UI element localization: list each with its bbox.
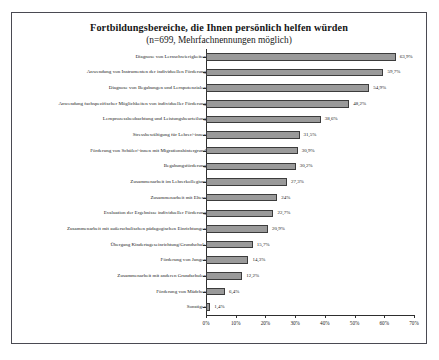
x-axis-tick-label: 10%	[231, 320, 241, 327]
y-axis-tick	[203, 260, 206, 261]
bar-row: Förderung von Schüler/-innen mit Migrati…	[12, 143, 428, 159]
plot-area: Diagnose von Lernschwierigkeiten63,9%Anw…	[12, 49, 428, 345]
bar-track: 1,4%	[206, 299, 416, 315]
bar-track: 12,2%	[206, 268, 416, 284]
value-label: 1,4%	[214, 303, 224, 311]
category-label: Förderung von Jungen	[0, 257, 206, 263]
bar	[206, 303, 210, 311]
value-label: 22,7%	[277, 209, 290, 217]
x-axis-tick	[236, 315, 237, 318]
bar-track: 63,9%	[206, 49, 416, 65]
bar-row: Anwendung von Instrumenten der individue…	[12, 65, 428, 81]
category-label: Zusammenarbeit mit außerschulischen päda…	[0, 226, 206, 232]
y-axis-tick	[203, 245, 206, 246]
value-label: 30,9%	[302, 147, 315, 155]
bar	[206, 84, 369, 92]
category-label: Zusammenarbeit im Lehrerkollegium	[0, 179, 206, 185]
chart-figure: Fortbildungsbereiche, die Ihnen persönli…	[11, 12, 427, 344]
bar	[206, 100, 349, 108]
bar-row: Diagnose von Lernschwierigkeiten63,9%	[12, 49, 428, 65]
bar-row: Evaluation der Ergebnisse individueller …	[12, 205, 428, 221]
value-label: 48,2%	[353, 100, 366, 108]
x-axis-tick-label: 30%	[290, 320, 300, 327]
bar	[206, 241, 253, 249]
bar-track: 38,6%	[206, 112, 416, 128]
value-label: 15,7%	[257, 241, 270, 249]
bar-row: Übergang Kindertageseinrichtung/Grundsch…	[12, 237, 428, 253]
x-axis-tick	[206, 315, 207, 318]
bar-row: Anwendung fachspezifischer Möglichkeiten…	[12, 96, 428, 112]
bar-track: 24%	[206, 190, 416, 206]
y-axis-tick	[203, 57, 206, 58]
bar	[206, 69, 383, 77]
x-axis-tick-label: 0%	[203, 320, 210, 327]
value-label: 24%	[281, 194, 290, 202]
bar-row: Förderung von Mädchen6,4%	[12, 284, 428, 300]
bar	[206, 116, 321, 124]
y-axis-tick	[203, 88, 206, 89]
category-label: Übergang Kindertageseinrichtung/Grundsch…	[0, 242, 206, 248]
y-axis-tick	[203, 72, 206, 73]
y-axis-tick	[203, 119, 206, 120]
bar-track: 48,2%	[206, 96, 416, 112]
y-axis-tick	[203, 276, 206, 277]
x-axis-line	[206, 315, 414, 316]
bar	[206, 256, 248, 264]
x-axis-tick	[325, 315, 326, 318]
bar-track: 22,7%	[206, 205, 416, 221]
bar	[206, 178, 287, 186]
bar-track: 31,5%	[206, 127, 416, 143]
bar-row: Begabungsförderung30,2%	[12, 159, 428, 175]
category-label: Begabungsförderung	[0, 163, 206, 169]
value-label: 14,3%	[252, 256, 265, 264]
category-label: Förderung von Mädchen	[0, 289, 206, 295]
y-axis-tick	[203, 151, 206, 152]
y-axis-tick	[203, 292, 206, 293]
bar	[206, 210, 273, 218]
bar-row: Sonstiges1,4%	[12, 299, 428, 315]
value-label: 63,9%	[400, 53, 413, 61]
chart-title-block: Fortbildungsbereiche, die Ihnen persönli…	[12, 21, 426, 46]
x-axis-tick	[414, 315, 415, 318]
value-label: 31,5%	[304, 131, 317, 139]
bar-row: Zusammenarbeit im Lehrerkollegium27,3%	[12, 174, 428, 190]
y-axis-tick	[203, 229, 206, 230]
bar-row: Stressbewältigung für Lehrer/-innen31,5%	[12, 127, 428, 143]
y-axis-tick	[203, 182, 206, 183]
value-label: 27,3%	[291, 178, 304, 186]
bar-track: 30,2%	[206, 159, 416, 175]
x-axis-tick	[355, 315, 356, 318]
page-title: Fortbildungsbereiche, die Ihnen persönli…	[12, 21, 426, 34]
bar-row: Zusammenarbeit mit anderen Grundschulen1…	[12, 268, 428, 284]
bar-track: 14,3%	[206, 252, 416, 268]
x-axis-tick-label: 70%	[409, 320, 419, 327]
bar-row: Lernprozessbeobachtung und Leistungsbeur…	[12, 112, 428, 128]
bar	[206, 53, 396, 61]
bar-row: Zusammenarbeit mit Eltern24%	[12, 190, 428, 206]
bar-track: 20,9%	[206, 221, 416, 237]
category-label: Anwendung von Instrumenten der individue…	[0, 69, 206, 75]
bar-track: 6,4%	[206, 284, 416, 300]
value-label: 54,9%	[373, 84, 386, 92]
y-axis-tick	[203, 104, 206, 105]
bar-track: 59,7%	[206, 65, 416, 81]
bar-row: Diagnose von Begabungen und Lernpotenzia…	[12, 80, 428, 96]
x-axis-tick-label: 40%	[320, 320, 330, 327]
bar	[206, 147, 298, 155]
category-label: Zusammenarbeit mit Eltern	[0, 195, 206, 201]
category-label: Sonstiges	[0, 304, 206, 310]
y-axis-tick	[203, 135, 206, 136]
bar	[206, 131, 300, 139]
x-axis-tick	[295, 315, 296, 318]
value-label: 12,2%	[246, 272, 259, 280]
bar	[206, 163, 296, 171]
y-axis-tick	[203, 307, 206, 308]
category-label: Stressbewältigung für Lehrer/-innen	[0, 132, 206, 138]
value-label: 20,9%	[272, 225, 285, 233]
bar	[206, 194, 277, 202]
value-label: 59,7%	[387, 68, 400, 76]
x-axis-tick	[265, 315, 266, 318]
chart-subtitle: (n=699, Mehrfachnennungen möglich)	[12, 34, 426, 46]
bar	[206, 288, 225, 296]
x-axis-tick	[384, 315, 385, 318]
